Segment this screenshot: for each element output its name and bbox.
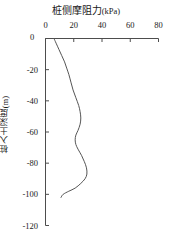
y-tick-label: -60 [12, 127, 38, 137]
y-tick-label: -120 [12, 221, 38, 231]
x-tick-label: 0 [43, 20, 47, 30]
x-tick-label: 60 [126, 20, 135, 30]
data-line-series-0 [54, 39, 87, 198]
y-axis-ticks [46, 39, 50, 226]
x-tick-label: 80 [154, 20, 163, 30]
x-tick-label: 20 [70, 20, 79, 30]
x-tick-label: 40 [98, 20, 107, 30]
axis-lines [46, 39, 159, 226]
chart-figure: 桩侧摩阻力(kPa) 桩入土深度(m) 0 020406080 -20-40-6… [0, 0, 172, 241]
y-tick-label: -40 [12, 96, 38, 106]
y-tick-label: -20 [12, 65, 38, 75]
x-axis-ticks [46, 39, 159, 43]
y-tick-label: -80 [12, 158, 38, 168]
y-tick-label: -100 [12, 189, 38, 199]
plot-area [0, 0, 172, 241]
